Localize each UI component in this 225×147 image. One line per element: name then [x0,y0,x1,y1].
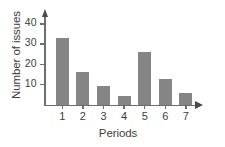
y-axis-tick-label: 40 [25,16,37,28]
x-axis-arrow-icon [195,101,203,109]
bar [97,86,110,104]
y-axis-tick-label: 20 [25,57,37,69]
x-axis-tick [185,105,187,109]
y-axis-tick: 20 [40,64,45,66]
bar [56,38,69,104]
y-axis-arrow-icon [42,9,48,17]
x-axis-tick [165,105,167,109]
x-axis-tick-label: 7 [177,110,195,122]
y-axis-line [44,16,46,106]
x-axis-tick-label: 5 [136,110,154,122]
y-axis-tick-label: 30 [25,36,37,48]
bar [76,72,89,104]
x-axis-tick [144,105,146,109]
y-axis-tick: 10 [40,84,45,86]
x-axis-tick [62,105,64,109]
x-axis-tick [123,105,125,109]
bar [179,93,192,104]
y-axis-tick: 30 [40,43,45,45]
x-axis-title: Periods [38,127,198,139]
x-axis-tick-label: 2 [74,110,92,122]
y-axis-tick: 40 [40,23,45,25]
x-axis-tick [82,105,84,109]
x-axis-tick-label: 6 [156,110,174,122]
bar [159,79,172,104]
x-axis-tick-label: 1 [53,110,71,122]
bar [118,96,131,104]
plot-area: 10203040 1234567 [44,16,204,106]
x-axis-tick-label: 4 [115,110,133,122]
bar-chart-figure: Number of issues 10203040 1234567 Period… [0,0,225,147]
x-axis-line [44,105,196,107]
y-axis-title: Number of issues [10,0,22,110]
bar [138,52,151,104]
x-axis-tick-label: 3 [95,110,113,122]
y-axis-tick-label: 10 [25,77,37,89]
x-axis-tick [103,105,105,109]
